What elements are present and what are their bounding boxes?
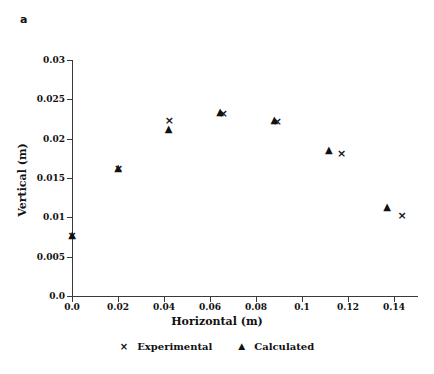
data-point-calculated: ▲ bbox=[325, 145, 333, 155]
data-point-calculated: ▲ bbox=[216, 107, 224, 117]
x-axis-title: Horizontal (m) bbox=[0, 316, 434, 328]
y-tick-label: 0.03 bbox=[43, 56, 65, 65]
y-tick bbox=[67, 99, 73, 100]
y-axis-title-wrapper: Vertical (m) bbox=[14, 120, 32, 240]
data-point-experimental: × bbox=[273, 115, 282, 126]
data-point-calculated: ▲ bbox=[271, 115, 279, 125]
y-tick bbox=[67, 217, 73, 218]
panel-label: a bbox=[20, 14, 27, 25]
y-tick bbox=[67, 60, 73, 61]
y-tick-label: 0.02 bbox=[43, 134, 65, 143]
triangle-marker-icon: ▲ bbox=[238, 342, 245, 351]
legend-entry: ▲Calculated bbox=[238, 341, 314, 352]
x-tick-label: 0.12 bbox=[337, 303, 359, 312]
y-tick bbox=[67, 178, 73, 179]
y-tick-label: 0.0 bbox=[49, 292, 65, 301]
chart-legend: ×Experimental▲Calculated bbox=[0, 341, 434, 352]
y-axis-title: Vertical (m) bbox=[17, 143, 29, 216]
y-tick-label: 0.015 bbox=[37, 174, 65, 183]
data-point-experimental: × bbox=[219, 108, 228, 119]
y-tick-label: 0.005 bbox=[37, 252, 65, 261]
data-point-calculated: ▲ bbox=[114, 163, 122, 173]
data-point-experimental: × bbox=[165, 114, 174, 125]
y-tick-label: 0.025 bbox=[37, 95, 65, 104]
data-point-calculated: ▲ bbox=[383, 202, 391, 212]
y-tick bbox=[67, 257, 73, 258]
y-tick bbox=[67, 139, 73, 140]
x-tick-label: 0.06 bbox=[199, 303, 221, 312]
plot-area: 0.00.0050.010.0150.020.0250.03 0.00.020.… bbox=[72, 60, 418, 296]
cross-marker-icon: × bbox=[120, 342, 128, 352]
legend-label: Calculated bbox=[254, 341, 314, 352]
data-point-calculated: ▲ bbox=[165, 124, 173, 134]
x-tick-label: 0.02 bbox=[107, 303, 129, 312]
x-tick-label: 0.0 bbox=[64, 303, 80, 312]
data-point-experimental: × bbox=[398, 209, 407, 220]
figure-panel: a 0.00.0050.010.0150.020.0250.03 0.00.02… bbox=[0, 0, 434, 374]
legend-label: Experimental bbox=[137, 341, 212, 352]
x-tick-label: 0.14 bbox=[383, 303, 405, 312]
x-tick-label: 0.08 bbox=[245, 303, 267, 312]
legend-entry: ×Experimental bbox=[120, 341, 213, 352]
y-tick-label: 0.01 bbox=[43, 213, 65, 222]
data-point-experimental: × bbox=[114, 162, 123, 173]
x-tick-label: 0.1 bbox=[294, 303, 310, 312]
x-axis-line bbox=[72, 296, 418, 297]
data-point-experimental: × bbox=[337, 147, 346, 158]
x-tick-label: 0.04 bbox=[153, 303, 175, 312]
